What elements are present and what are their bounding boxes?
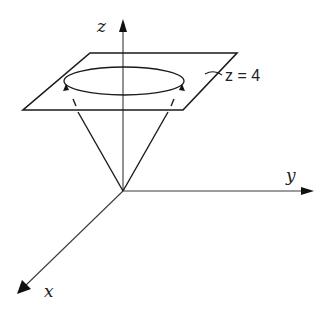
z-axis-arrow-icon <box>119 19 127 32</box>
left-arrow-icon <box>63 84 69 91</box>
z-axis-label: z <box>96 16 107 36</box>
intersection-circle <box>63 67 185 95</box>
x-axis-label: x <box>44 281 54 301</box>
cone-plane-diagram: z y x z = 4 <box>0 0 326 314</box>
y-axis <box>123 187 314 195</box>
plane-label: z = 4 <box>225 67 260 84</box>
z-axis <box>119 19 127 191</box>
y-axis-arrow-icon <box>301 187 314 195</box>
plane-z4 <box>23 53 237 110</box>
x-axis <box>17 191 123 294</box>
right-arrow-icon <box>179 84 185 91</box>
y-axis-label: y <box>285 165 296 185</box>
